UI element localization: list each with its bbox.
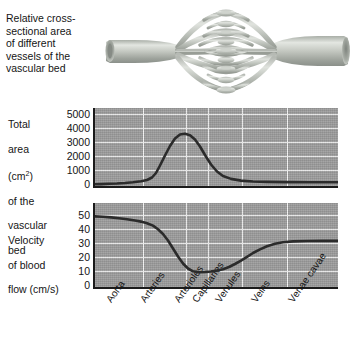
vein-trunk-right: [274, 36, 350, 66]
vascular-figure: Relative cross- sectional area of differ…: [0, 0, 350, 363]
ytick-v-50: 50: [50, 210, 90, 220]
velocity-chart: Velocity of blood flow (cm/s) 0 10 20 30…: [0, 200, 350, 292]
velocity-plot: [95, 203, 338, 287]
total-area-chart: Total area (cm2) of the vascular bed 0 1…: [0, 104, 350, 192]
ytick-5000: 5000: [50, 109, 90, 119]
capillary-beads: [216, 9, 237, 93]
artery-trunk-left: [105, 40, 178, 63]
superscript-two: 2: [26, 169, 30, 176]
velocity-title-line-1: Velocity: [8, 234, 44, 246]
ytick-3000: 3000: [50, 137, 90, 147]
illustration-caption: Relative cross- sectional area of differ…: [6, 12, 98, 75]
velocity-curve: [95, 203, 338, 287]
velocity-title-line-2: of blood: [8, 259, 45, 271]
axis-title-line-1: Total: [8, 118, 30, 130]
vascular-bed-illustration: [104, 2, 350, 98]
total-area-curve: [95, 108, 338, 186]
x-axis-category-labels: Aorta Arteries Arterioles Capillaries Ve…: [0, 292, 350, 363]
ytick-v-10: 10: [50, 266, 90, 276]
ytick-2000: 2000: [50, 151, 90, 161]
ytick-1000: 1000: [50, 165, 90, 175]
ytick-v-30: 30: [50, 238, 90, 248]
axis-title-line-2: area: [8, 143, 29, 155]
ytick-0: 0: [50, 179, 90, 189]
ytick-v-0: 0: [50, 280, 90, 290]
velocity-y-ticks: 0 10 20 30 40 50: [50, 200, 90, 292]
total-area-plot: [95, 108, 338, 186]
ytick-v-40: 40: [50, 224, 90, 234]
illustration-panel: Relative cross- sectional area of differ…: [0, 0, 350, 100]
total-area-y-ticks: 0 1000 2000 3000 4000 5000: [50, 104, 90, 192]
ytick-4000: 4000: [50, 123, 90, 133]
total-area-x-axis: [95, 186, 338, 188]
axis-title-line-3: (cm2): [8, 170, 33, 182]
ytick-v-20: 20: [50, 252, 90, 262]
